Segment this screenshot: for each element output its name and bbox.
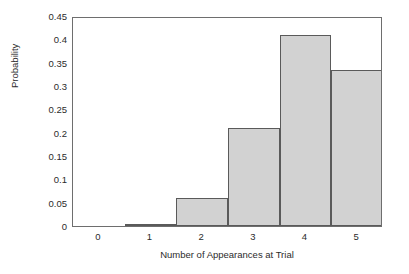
x-axis-tick-label: 2 bbox=[189, 231, 213, 242]
x-axis-tick-label: 1 bbox=[138, 231, 162, 242]
y-axis-tick-label: 0.2 bbox=[54, 129, 67, 139]
y-axis-tick-label: 0.35 bbox=[49, 59, 68, 69]
y-axis-title: Probability bbox=[9, 44, 20, 88]
y-axis-tick-label: 0.05 bbox=[49, 199, 68, 209]
bar bbox=[331, 70, 382, 226]
bar bbox=[280, 35, 332, 226]
x-axis-tick-label: 5 bbox=[344, 231, 368, 242]
x-axis-title: Number of Appearances at Trial bbox=[72, 249, 382, 260]
bars-layer bbox=[73, 18, 381, 226]
y-axis-tick-label: 0.1 bbox=[54, 175, 67, 185]
y-axis-tick-label: 0.25 bbox=[49, 105, 68, 115]
x-axis-tick-label: 4 bbox=[293, 231, 317, 242]
x-axis-tick-labels: 012345 bbox=[0, 231, 409, 245]
y-axis-tick-label: 0.15 bbox=[49, 152, 68, 162]
y-axis-tick-label: 0.45 bbox=[49, 12, 68, 22]
x-axis-tick-label: 0 bbox=[86, 231, 110, 242]
bar bbox=[176, 198, 228, 226]
x-axis-tick-label: 3 bbox=[241, 231, 265, 242]
y-axis-tick-label: 0.4 bbox=[54, 35, 67, 45]
histogram-figure: 0.45 0.4 0.35 0.3 0.25 0.2 0.15 0.1 0.05… bbox=[0, 0, 409, 274]
bar bbox=[125, 224, 177, 226]
bar bbox=[228, 128, 280, 226]
plot-area bbox=[72, 17, 382, 227]
y-axis-tick-label: 0.3 bbox=[54, 82, 67, 92]
